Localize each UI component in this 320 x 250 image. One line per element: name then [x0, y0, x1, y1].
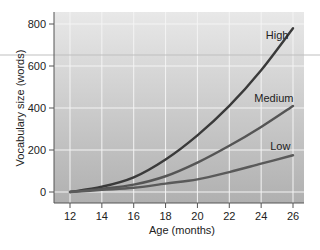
x-tick-label: 24 [255, 210, 267, 222]
x-tick-label: 14 [96, 210, 108, 222]
y-tick-label: 600 [28, 60, 46, 72]
x-tick-label: 26 [287, 210, 299, 222]
y-tick-label: 200 [28, 144, 46, 156]
y-axis-title: Vocabulary size (words) [14, 50, 26, 167]
x-tick-label: 20 [191, 210, 203, 222]
x-axis-title: Age (months) [149, 224, 215, 236]
x-tick-label: 18 [159, 210, 171, 222]
label-low: Low [270, 140, 290, 152]
y-tick-label: 400 [28, 102, 46, 114]
label-medium: Medium [254, 92, 293, 104]
y-tick-label: 0 [40, 186, 46, 198]
label-high: High [266, 29, 289, 41]
y-tick-label: 800 [28, 18, 46, 30]
x-tick-label: 22 [223, 210, 235, 222]
line-chart: 02004006008001214161820222426 HighMedium… [0, 0, 320, 250]
x-tick-label: 12 [64, 210, 76, 222]
x-tick-label: 16 [128, 210, 140, 222]
